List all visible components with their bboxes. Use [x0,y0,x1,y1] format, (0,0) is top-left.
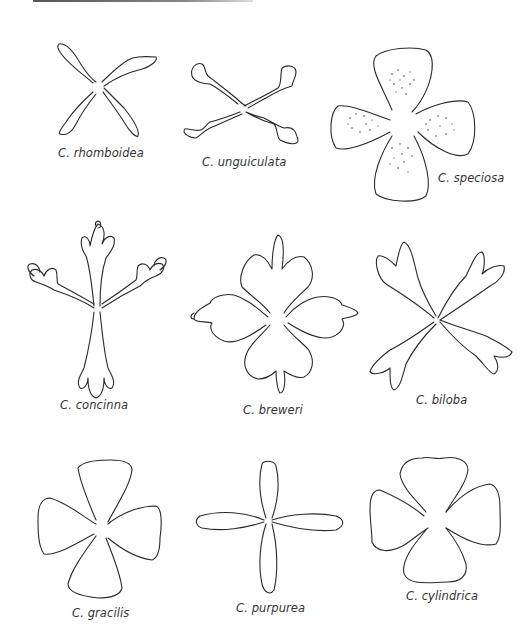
unguiculata-flower-drawing [170,60,330,210]
figure-rhomboidea: C. rhomboidea [0,0,180,200]
figure-concinna: C. concinna [10,220,190,440]
caption-text: C. unguiculata [202,155,287,169]
caption-text: C. concinna [60,398,128,412]
figure-biloba: C. biloba [360,240,530,440]
caption-cylindrica: C. cylindrica [406,589,478,603]
figure-gracilis: C. gracilis [20,460,190,637]
caption-breweri: C. breweri [243,403,303,417]
figure-unguiculata: C. unguiculata [170,60,330,210]
caption-text: C. cylindrica [406,589,478,603]
stipple-spot-right [425,115,455,137]
caption-text: C. rhomboidea [58,146,144,160]
stipple-spot-bottom [389,143,413,173]
caption-text: C. speciosa [438,171,504,185]
stipple-spot-top [389,69,415,95]
figure-speciosa: C. speciosa [330,40,530,210]
biloba-flower-drawing [360,240,530,440]
figure-breweri: C. breweri [180,225,360,445]
caption-concinna: C. concinna [60,398,128,412]
caption-biloba: C. biloba [416,393,467,407]
rhomboidea-flower-drawing [0,0,180,200]
caption-text: C. purpurea [236,601,305,615]
caption-text: C. biloba [416,393,467,407]
caption-speciosa: C. speciosa [438,171,504,185]
caption-rhomboidea: C. rhomboidea [58,146,144,160]
caption-text: C. gracilis [72,606,129,620]
caption-gracilis: C. gracilis [72,606,129,620]
caption-unguiculata: C. unguiculata [202,155,287,169]
caption-text: C. breweri [243,403,303,417]
figure-purpurea: C. purpurea [180,460,350,637]
cylindrica-flower-drawing [350,450,530,637]
figure-cylindrica: C. cylindrica [350,450,530,637]
caption-purpurea: C. purpurea [236,601,305,615]
stipple-spot-left [347,113,379,133]
